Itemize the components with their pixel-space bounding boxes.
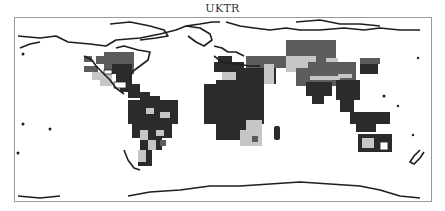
island-dot [22, 123, 25, 126]
grid-cell-light [264, 64, 274, 84]
unshaded-cell [380, 142, 388, 150]
island-dot [22, 53, 25, 56]
grid-cell-light [240, 130, 252, 146]
grid-cell-dark [340, 100, 354, 112]
grid-cell-light [140, 130, 148, 140]
grid-cell-light [146, 108, 154, 114]
grid-cell-medium [360, 58, 380, 64]
island-dot [49, 128, 52, 131]
grid-cell-light [156, 130, 164, 136]
grid-cell-medium [160, 140, 166, 146]
coastline [226, 22, 420, 30]
coastline [128, 182, 420, 198]
grid-cell-light [310, 76, 340, 80]
grid-cell-dark [360, 64, 378, 74]
grid-cell-dark [306, 82, 332, 96]
coastline [296, 20, 380, 26]
coastline [186, 26, 212, 46]
island-dot [412, 134, 414, 136]
grid-cell-medium [252, 136, 258, 142]
grid-cell-dark [356, 124, 376, 132]
grid-cell-light [326, 58, 338, 62]
grid-cell-light [362, 138, 374, 148]
coastline [18, 22, 220, 46]
grid-cell-light [138, 150, 146, 162]
grid-cell-light [338, 74, 352, 78]
island-dot [17, 152, 20, 155]
coastline [124, 150, 140, 170]
world-map [0, 0, 445, 211]
grid-cell-light [296, 60, 308, 68]
madagascar [274, 126, 280, 140]
grid-cell-dark [312, 96, 324, 104]
grid-cell-medium [298, 42, 322, 54]
unshaded-cell [104, 70, 112, 74]
coastline [18, 196, 60, 198]
grid-cell-dark [132, 124, 172, 138]
grid-cell-light [160, 112, 170, 118]
grid-cell-dark [112, 64, 132, 74]
grid-cell-light [148, 140, 156, 150]
island-dot [383, 95, 386, 98]
coastline [214, 46, 244, 56]
island-dot [417, 57, 419, 59]
grid-cell-dark [204, 84, 264, 124]
shaded-cells-layer [84, 40, 392, 166]
island-dot [397, 105, 399, 107]
new-zealand-outline [410, 150, 424, 164]
coastline [20, 42, 40, 48]
grid-cell-dark [336, 80, 360, 100]
grid-cell-dark [350, 112, 390, 124]
